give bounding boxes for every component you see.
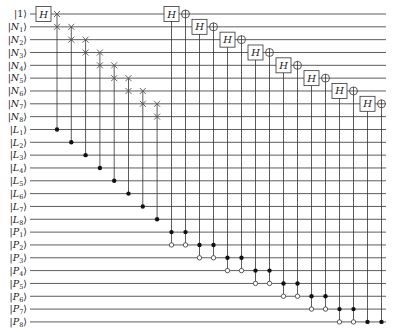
control-dot-open	[169, 243, 173, 247]
wire-label: |L1⟩	[10, 124, 27, 137]
control-dot-filled	[155, 217, 159, 221]
hadamard-label: H	[38, 9, 48, 20]
wires-group	[30, 14, 386, 322]
cnot-target-icon	[378, 100, 386, 108]
hadamard-label: H	[334, 85, 344, 96]
cnot-target-icon	[350, 87, 358, 95]
control-dot-filled	[126, 191, 130, 195]
control-dot-filled	[197, 243, 201, 247]
hadamard-label: H	[194, 21, 204, 32]
control-dot-open	[253, 281, 257, 285]
control-dot-filled	[225, 256, 229, 260]
control-dot-filled	[281, 281, 285, 285]
wire-label: |P5⟩	[10, 278, 27, 291]
wire-labels-group: |1⟩|N1⟩|N2⟩|N3⟩|N4⟩|N5⟩|N6⟩|N7⟩|N8⟩|L1⟩|…	[8, 8, 27, 329]
cnot-target-icon	[294, 61, 302, 69]
hadamard-label: H	[166, 9, 176, 20]
control-dot-filled	[211, 243, 215, 247]
wire-label: |L5⟩	[10, 175, 27, 188]
control-dot-filled	[351, 307, 355, 311]
wire-label: |N5⟩	[8, 72, 27, 85]
cnot-target-icon	[210, 23, 218, 31]
hadamard-label: H	[222, 34, 232, 45]
control-dot-filled	[309, 294, 313, 298]
control-dot-open	[337, 320, 341, 324]
control-dot-filled	[239, 256, 243, 260]
control-dot-open	[323, 307, 327, 311]
wire-label: |N6⟩	[8, 85, 27, 98]
wire-label: |P4⟩	[10, 265, 27, 278]
control-dot-filled	[253, 268, 257, 272]
gates-group: HHHHHHHHH	[36, 7, 386, 325]
wire-label: |L4⟩	[10, 162, 27, 175]
wire-label: |N8⟩	[8, 111, 27, 124]
wire-label: |P7⟩	[10, 303, 27, 316]
wire-label: |P1⟩	[10, 226, 27, 239]
wire-label: |N4⟩	[8, 60, 27, 73]
control-dot-open	[211, 256, 215, 260]
control-dot-filled	[55, 127, 59, 131]
control-dot-filled	[112, 179, 116, 183]
control-dot-filled	[337, 307, 341, 311]
hadamard-label: H	[250, 47, 260, 58]
wire-label: |L3⟩	[10, 149, 27, 162]
wire-label: |N2⟩	[8, 34, 27, 47]
control-dot-filled	[267, 268, 271, 272]
control-dot-open	[225, 268, 229, 272]
control-dot-filled	[183, 230, 187, 234]
control-dot-open	[197, 256, 201, 260]
wire-label: |P2⟩	[10, 239, 27, 252]
control-dot-open	[295, 294, 299, 298]
wire-label: |N7⟩	[8, 98, 27, 111]
wire-label: |N1⟩	[8, 21, 27, 34]
control-dot-filled	[169, 230, 173, 234]
wire-label: |1⟩	[14, 8, 27, 20]
quantum-circuit-diagram: HHHHHHHHH |1⟩|N1⟩|N2⟩|N3⟩|N4⟩|N5⟩|N6⟩|N7…	[0, 0, 396, 332]
cnot-target-icon	[322, 74, 330, 82]
wire-label: |L8⟩	[10, 214, 27, 227]
control-dot-filled	[141, 204, 145, 208]
control-dot-filled	[98, 166, 102, 170]
wire-label: |N3⟩	[8, 47, 27, 60]
cnot-target-icon	[266, 48, 274, 56]
control-dot-filled	[365, 320, 369, 324]
control-dot-filled	[379, 320, 383, 324]
wire-label: |P3⟩	[10, 252, 27, 265]
control-dot-filled	[323, 294, 327, 298]
control-dot-open	[281, 294, 285, 298]
control-dot-filled	[69, 140, 73, 144]
control-dot-filled	[83, 153, 87, 157]
control-dot-open	[239, 268, 243, 272]
cnot-target-icon	[182, 10, 190, 18]
control-dot-open	[183, 243, 187, 247]
wire-label: |L7⟩	[10, 201, 27, 214]
wire-label: |L6⟩	[10, 188, 27, 201]
hadamard-label: H	[278, 60, 288, 71]
hadamard-label: H	[306, 73, 316, 84]
wire-label: |L2⟩	[10, 137, 27, 150]
control-dot-filled	[295, 281, 299, 285]
control-dot-open	[267, 281, 271, 285]
hadamard-label: H	[362, 98, 372, 109]
control-dot-open	[351, 320, 355, 324]
wire-label: |P6⟩	[10, 291, 27, 304]
control-dot-open	[309, 307, 313, 311]
wire-label: |P8⟩	[10, 316, 27, 329]
cnot-target-icon	[238, 36, 246, 44]
